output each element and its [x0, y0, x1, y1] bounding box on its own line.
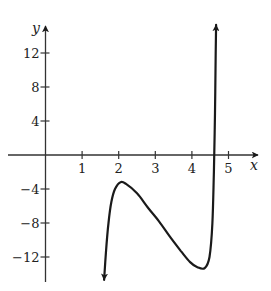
function-curve	[104, 25, 216, 280]
y-tick-label: 12	[23, 46, 40, 61]
y-tick-label: −8	[20, 216, 39, 231]
x-tick-label: 2	[115, 161, 123, 176]
x-tick-label: 1	[78, 161, 86, 176]
x-tick-label: 3	[151, 161, 159, 176]
y-tick-label: −12	[12, 250, 39, 265]
y-tick-label: −4	[20, 182, 39, 197]
y-axis-label: y	[31, 20, 41, 36]
y-tick-label: 4	[31, 114, 39, 129]
x-axis-label: x	[250, 157, 258, 173]
y-tick-label: 8	[31, 80, 39, 95]
x-tick-label: 4	[188, 161, 196, 176]
axes: 12345 1284−4−8−12 x y	[8, 20, 258, 282]
function-graph: 12345 1284−4−8−12 x y	[0, 0, 271, 291]
x-tick-label: 5	[224, 161, 232, 176]
